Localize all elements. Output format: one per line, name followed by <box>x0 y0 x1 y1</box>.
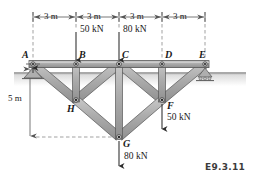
figure-id-label: E9.3.11 <box>205 163 245 172</box>
joint-label-C: C <box>122 50 129 60</box>
dimension-label-C-D: 3 m <box>130 12 144 21</box>
joint-label-E: E <box>199 50 206 60</box>
joint-label-A: A <box>22 50 29 60</box>
member-C-G <box>116 62 123 139</box>
dimension-label-B-C: 3 m <box>87 12 101 21</box>
member-B-H <box>73 62 80 102</box>
joint-label-D: D <box>165 50 172 60</box>
load-label-B: 50 kN <box>80 25 104 35</box>
member-D-F <box>159 62 166 102</box>
member-H-G <box>73 97 121 140</box>
joint-label-H: H <box>67 104 75 114</box>
load-label-G: 80 kN <box>124 152 148 162</box>
truss-figure: 3 m 3 m 3 m 3 m 5 m 50 kN 80 kN 50 kN 80… <box>0 0 263 186</box>
joint-label-F: F <box>167 101 174 111</box>
dimension-label-A-B: 3 m <box>44 12 58 21</box>
dimension-label-height: 5 m <box>8 94 22 103</box>
dimension-label-D-E: 3 m <box>173 12 187 21</box>
member-G-F <box>116 97 164 140</box>
load-label-F: 50 kN <box>167 113 191 123</box>
load-label-C: 80 kN <box>123 25 147 35</box>
joint-label-B: B <box>79 50 86 60</box>
joint-label-G: G <box>123 139 130 149</box>
